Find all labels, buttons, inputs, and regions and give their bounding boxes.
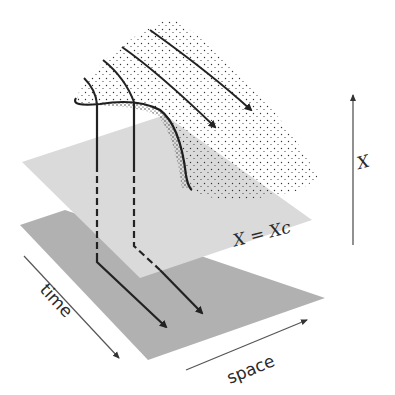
time-axis-label: time: [36, 279, 77, 321]
space-axis-label: space: [224, 351, 278, 388]
diagram-canvas: X X = Xc time space: [0, 0, 395, 395]
diagram-svg: X X = Xc time space: [0, 0, 395, 395]
x-axis-label: X: [353, 151, 373, 174]
